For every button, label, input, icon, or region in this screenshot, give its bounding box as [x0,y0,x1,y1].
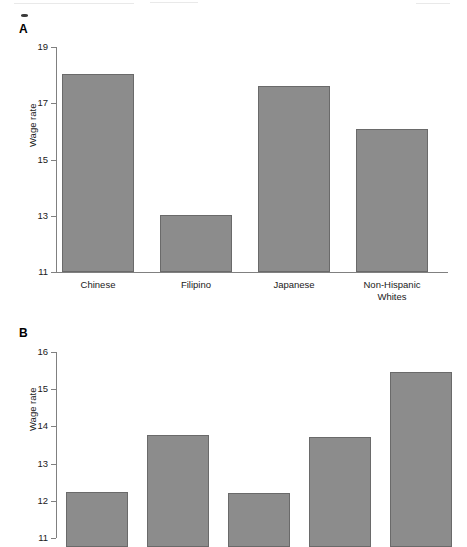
y-axis-tick [51,103,56,104]
y-axis-tick-label: 17 [12,97,48,108]
bar [228,493,290,547]
y-axis-tick [51,464,56,465]
bar [258,86,330,272]
panel-a-letter: A [19,22,28,36]
panel-b: B Wage rate111213141516 [0,326,467,547]
x-axis-category-label: Chinese [48,279,148,291]
bar [160,215,232,272]
y-axis-tick-label: 11 [12,266,48,277]
bar [356,129,428,272]
x-axis-category-label: Filipino [146,279,246,291]
y-axis-tick-label: 15 [12,383,48,394]
y-axis-tick [51,426,56,427]
y-axis-tick [51,160,56,161]
x-axis-category-label: Japanese [244,279,344,291]
y-axis-tick [51,389,56,390]
bar [147,435,209,547]
y-axis-tick [51,538,56,539]
y-axis-tick-label: 15 [12,154,48,165]
y-axis-tick [51,272,56,273]
y-axis-tick [51,501,56,502]
scan-artifact-mark [21,14,28,17]
y-axis-tick-label: 19 [12,41,48,52]
bar [390,372,452,547]
y-axis-line [56,352,57,538]
scan-artifact-line [416,3,450,4]
y-axis-tick-label: 14 [12,420,48,431]
x-axis-category-label: Non-Hispanic Whites [342,279,442,303]
panel-b-letter: B [19,326,28,340]
y-axis-tick [51,216,56,217]
y-axis-tick-label: 13 [12,458,48,469]
bar [309,437,371,547]
y-axis-tick-label: 11 [12,532,48,543]
y-axis-line [56,47,57,272]
scan-artifact-line [150,2,198,3]
y-axis-tick-label: 13 [12,210,48,221]
panel-a: A Wage rate1113151719ChineseFilipinoJapa… [0,22,467,314]
bar [62,74,134,272]
x-axis-line [56,272,448,273]
scan-artifact-line [14,3,134,4]
y-axis-tick-label: 12 [12,495,48,506]
y-axis-title: Wage rate [27,104,38,147]
y-axis-tick [51,47,56,48]
y-axis-tick-label: 16 [12,346,48,357]
y-axis-tick [51,352,56,353]
bar [66,492,128,547]
